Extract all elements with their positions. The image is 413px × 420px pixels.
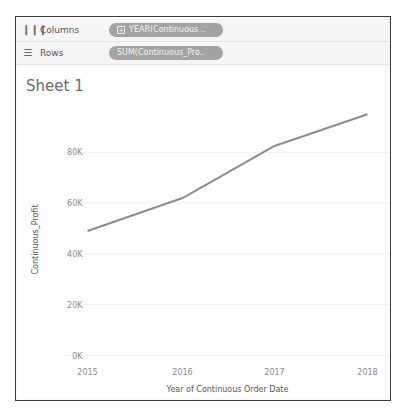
y-tick-label: 80K bbox=[67, 148, 83, 157]
y-tick-label: 0K bbox=[72, 352, 83, 361]
sheet-view: Sheet 1 0K20K40K60K80K2015201620172018Ye… bbox=[18, 67, 388, 398]
line-chart[interactable]: 0K20K40K60K80K2015201620172018Year of Co… bbox=[18, 67, 390, 400]
x-axis-title: Year of Continuous Order Date bbox=[166, 385, 289, 394]
y-tick-label: 20K bbox=[67, 301, 83, 310]
y-tick-label: 60K bbox=[67, 199, 83, 208]
columns-pill-year[interactable]: +YEAR(Continuous .. bbox=[109, 23, 223, 37]
rows-shelf-label: Rows bbox=[40, 48, 112, 58]
profit-line[interactable] bbox=[88, 114, 368, 231]
rows-pill-text: SUM(Continuous_Pro.. bbox=[117, 48, 205, 57]
y-axis-title: Continuous_Profit bbox=[31, 204, 40, 274]
x-tick-label: 2018 bbox=[357, 368, 377, 377]
columns-shelf-label: Columns bbox=[40, 25, 112, 35]
columns-icon: ❙❙❙ bbox=[22, 25, 34, 35]
rows-shelf[interactable]: ☰ Rows SUM(Continuous_Pro.. bbox=[16, 42, 390, 65]
columns-shelf[interactable]: ❙❙❙ Columns +YEAR(Continuous .. bbox=[16, 19, 390, 42]
rows-icon: ☰ bbox=[22, 48, 34, 58]
x-tick-label: 2016 bbox=[172, 368, 192, 377]
y-tick-label: 40K bbox=[67, 250, 83, 259]
columns-pill-text: YEAR(Continuous .. bbox=[129, 25, 206, 34]
rows-pill-sum[interactable]: SUM(Continuous_Pro.. bbox=[109, 46, 223, 60]
expand-plus-icon[interactable]: + bbox=[117, 26, 125, 34]
tableau-worksheet: ❙❙❙ Columns +YEAR(Continuous .. ☰ Rows S… bbox=[15, 16, 391, 401]
x-tick-label: 2017 bbox=[264, 368, 284, 377]
x-tick-label: 2015 bbox=[77, 368, 97, 377]
